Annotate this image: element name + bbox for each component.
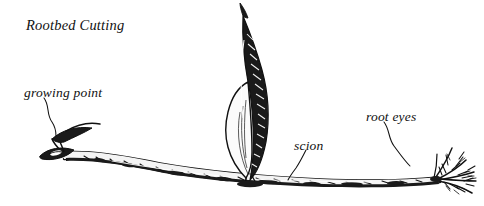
label-root-eyes: root eyes	[366, 109, 416, 125]
figure-canvas: Rootbed Cutting growing point scion root…	[0, 0, 484, 206]
label-growing-point: growing point	[24, 85, 102, 101]
label-scion: scion	[294, 138, 324, 154]
figure-title: Rootbed Cutting	[26, 17, 124, 34]
